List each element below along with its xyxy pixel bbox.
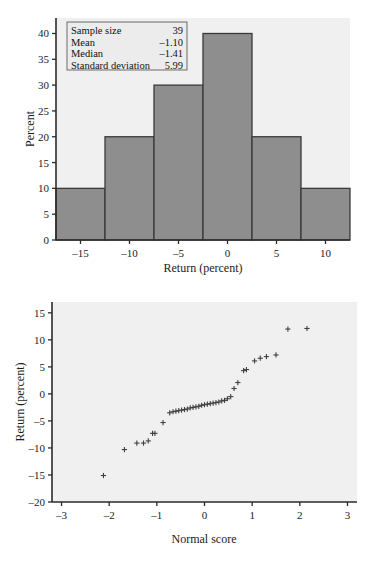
qqplot-x-tick-label: –1: [150, 509, 162, 521]
histogram-y-tick-label: 0: [44, 234, 50, 246]
histogram-bar: [301, 188, 350, 240]
histogram-bar: [105, 137, 154, 240]
histogram-y-tick-label: 10: [38, 182, 50, 194]
qqplot-x-tick-label: 1: [249, 509, 255, 521]
statistics-row-label: Median: [71, 48, 104, 59]
histogram-x-tick-label: 0: [225, 247, 231, 259]
histogram-bar: [154, 85, 203, 240]
qqplot-y-tick-label: 15: [34, 307, 46, 319]
histogram-x-tick-label: –5: [172, 247, 185, 259]
histogram-y-tick-label: 40: [38, 27, 50, 39]
statistics-row-label: Sample size: [71, 25, 122, 36]
qqplot-x-tick-label: –3: [55, 509, 68, 521]
histogram-x-axis-title: Return (percent): [164, 261, 243, 275]
histogram-x-tick-label: –10: [120, 247, 138, 259]
qqplot-y-tick-label: –10: [28, 442, 46, 454]
histogram-y-tick-label: 30: [38, 79, 50, 91]
histogram-bar: [203, 33, 252, 240]
histogram-y-tick-label: 15: [38, 157, 50, 169]
qqplot-plot-area: [52, 302, 357, 502]
histogram-x-tick-label: 10: [320, 247, 332, 259]
qqplot-x-tick-label: 3: [345, 509, 351, 521]
statistics-row-value: 5.99: [165, 60, 183, 71]
qqplot-y-tick-label: 10: [34, 334, 46, 346]
qqplot-x-tick-label: –2: [103, 509, 115, 521]
histogram-y-tick-label: 5: [44, 208, 50, 220]
histogram-y-axis-title: Percent: [23, 110, 37, 147]
statistics-box: Sample size39Mean–1.10Median–1.41Standar…: [67, 22, 187, 71]
histogram-svg: 0510152025303540–15–10–50510 Percent Ret…: [0, 0, 369, 290]
statistics-row-label: Standard deviation: [71, 60, 151, 71]
histogram-figure: 0510152025303540–15–10–50510 Percent Ret…: [0, 0, 369, 290]
histogram-x-tick-label: –15: [71, 247, 89, 259]
normal-probability-plot-figure: –20–15–10–5051015–3–2–10123 Return (perc…: [0, 290, 369, 561]
histogram-y-tick-label: 20: [38, 131, 50, 143]
statistics-row-value: 39: [173, 25, 184, 36]
qqplot-x-axis-title: Normal score: [172, 532, 237, 546]
histogram-y-tick-label: 25: [38, 105, 50, 117]
histogram-bar: [56, 188, 105, 240]
histogram-x-tick-label: 5: [274, 247, 280, 259]
statistics-row-value: –1.41: [158, 48, 183, 59]
qqplot-y-tick-label: –15: [28, 469, 46, 481]
qqplot-y-tick-label: –5: [33, 415, 46, 427]
statistics-row-label: Mean: [71, 37, 96, 48]
qqplot-x-tick-label: 0: [202, 509, 208, 521]
statistics-row-value: –1.10: [158, 37, 183, 48]
qqplot-y-tick-label: 0: [40, 388, 46, 400]
histogram-bar: [252, 137, 301, 240]
qqplot-y-tick-label: 5: [40, 361, 46, 373]
qqplot-svg: –20–15–10–5051015–3–2–10123 Return (perc…: [0, 290, 369, 561]
histogram-y-tick-label: 35: [38, 53, 50, 65]
qqplot-y-tick-label: –20: [28, 496, 46, 508]
qqplot-x-tick-label: 2: [297, 509, 303, 521]
qqplot-y-axis-title: Return (percent): [13, 363, 27, 442]
